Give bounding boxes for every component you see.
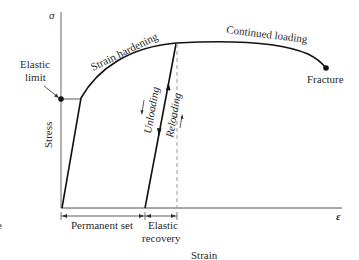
arrowhead-icon: [146, 214, 151, 218]
elastic-limit-label: Elastic: [20, 58, 50, 70]
elastic-limit-dot: [58, 96, 64, 102]
unloading-label: Unloading: [141, 85, 161, 134]
edge-text-fragment: e: [0, 219, 2, 231]
arrow-down-icon: [157, 128, 162, 136]
arrowhead-icon: [62, 214, 67, 218]
elastic-recovery-label: Elastic: [148, 219, 178, 231]
fracture-dot: [323, 65, 329, 71]
stress-strain-diagram: σ ε Stress Strain Elastic limit Fracture…: [0, 0, 359, 260]
arrowhead-icon: [171, 214, 176, 218]
elastic-limit-label-2: limit: [25, 71, 46, 83]
strain-axis-label: Strain: [191, 249, 218, 260]
permanent-set-label: Permanent set: [71, 219, 133, 231]
arrow-up-icon: [166, 82, 171, 91]
elastic-recovery-label-2: recovery: [142, 232, 181, 244]
stress-axis-label: Stress: [42, 122, 54, 148]
arrowhead-icon: [141, 110, 144, 115]
arrowhead-icon: [181, 114, 184, 119]
epsilon-symbol: ε: [336, 210, 341, 222]
sigma-symbol: σ: [49, 9, 55, 21]
strain-hardening-label: Strain hardening: [89, 30, 160, 73]
arrowhead-icon: [139, 214, 144, 218]
fracture-label: Fracture: [307, 73, 344, 85]
